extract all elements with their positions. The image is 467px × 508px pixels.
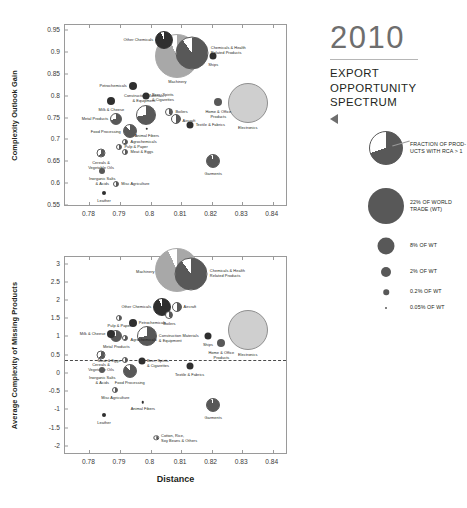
x-tick-mark-top <box>242 25 243 28</box>
y-tick-mark <box>65 117 68 118</box>
bubble-label: Ships <box>208 63 218 68</box>
legend-circle-icon <box>385 307 387 309</box>
x-tick-mark-top <box>273 257 274 260</box>
y-tick-mark <box>65 263 68 264</box>
y-tick-label: 1 <box>32 332 60 339</box>
y-tick-label: -1 <box>32 405 60 412</box>
y-tick-label: 0.85 <box>32 69 60 76</box>
y-tick-mark <box>65 300 68 301</box>
plot-area-bottom: MachineryElectronicsChemicals & HealthRe… <box>64 256 287 454</box>
bubble-label: Textile & Fabrics <box>175 373 204 378</box>
bubble-label: Boilers <box>175 109 187 114</box>
y-tick-mark <box>65 391 68 392</box>
bubble-label: Agrochemicals <box>130 338 156 343</box>
bubble-label: Cotton, Rice,Soy Beans & Others <box>161 434 197 444</box>
x-tick-label: 0.82 <box>204 210 217 217</box>
y-tick-mark <box>65 409 68 410</box>
y-tick-mark <box>65 95 68 96</box>
y-tick-mark <box>65 139 68 140</box>
y-tick-label: 0.65 <box>32 157 60 164</box>
x-tick-label: 0.8 <box>145 210 154 217</box>
bubble-label: Misc Agriculture <box>101 396 129 401</box>
x-tick-mark <box>212 202 213 205</box>
panel-subtitle-line-0: EXPORT <box>330 66 467 81</box>
x-tick-mark <box>151 450 152 453</box>
y-tick-label: 0.6 <box>32 178 60 185</box>
legend-label: 2% OF WT <box>410 268 437 275</box>
bubble-label: Meat & Eggs <box>130 149 153 154</box>
legend-label: 0.05% OF WT <box>410 304 445 311</box>
bubble-label: Inorganic Salts& Acids <box>89 177 116 187</box>
x-tick-mark-top <box>151 257 152 260</box>
x-tick-label: 0.81 <box>174 458 187 465</box>
y-tick-label: 2 <box>32 296 60 303</box>
bubble-label: Meat & Eggs <box>98 359 121 364</box>
bubble-label: Machinery <box>168 80 186 85</box>
legend-label: 22% OF WORLDTRADE (WT) <box>410 199 452 213</box>
x-tick-mark-top <box>89 257 90 260</box>
x-tick-mark-top <box>273 25 274 28</box>
y-tick-label: 0.75 <box>32 113 60 120</box>
legend-circle-icon <box>368 188 404 224</box>
y-tick-label: -0.5 <box>32 387 60 394</box>
y-tick-mark <box>65 354 68 355</box>
x-tick-mark-top <box>89 25 90 28</box>
x-tick-label: 0.81 <box>174 210 187 217</box>
x-tick-mark <box>273 450 274 453</box>
y-tick-label: 0 <box>32 368 60 375</box>
x-tick-mark-top <box>181 25 182 28</box>
bubble-label: Inorganic Salts& Acids <box>89 376 116 386</box>
y-tick-label: 0.55 <box>32 200 60 207</box>
x-tick-label: 0.8 <box>145 458 154 465</box>
bubble-label: Metal Products <box>103 345 130 350</box>
infographic-root: Complexity Outlook Gain MachineryElectro… <box>0 0 467 508</box>
bubble-label: Leather <box>97 421 111 426</box>
panel-divider <box>330 59 418 60</box>
x-tick-mark <box>212 450 213 453</box>
bubble-label: Beer, Spirits& Cigarettes <box>147 359 169 369</box>
x-tick-label: 0.84 <box>265 210 278 217</box>
bubble-label: Food Processing <box>115 381 145 386</box>
y-tick-mark <box>65 281 68 282</box>
legend-label: FRACTION OF PROD-UCTS WITH RCA > 1 <box>410 141 466 155</box>
legend-label: 0.2% OF WT <box>410 288 442 295</box>
x-tick-mark <box>120 450 121 453</box>
x-tick-label: 0.78 <box>82 210 95 217</box>
bubble-label: Machinery <box>136 270 154 275</box>
plot-area-top: MachineryElectronicsChemicals & HealthRe… <box>64 24 287 206</box>
y-tick-label: 0.95 <box>32 26 60 33</box>
y-tick-label: 3 <box>32 259 60 266</box>
y-tick-mark <box>65 52 68 53</box>
y-tick-mark <box>65 73 68 74</box>
x-tick-mark <box>273 202 274 205</box>
panel-subtitle-line-1: OPPORTUNITY <box>330 81 467 96</box>
y-tick-label: -2 <box>32 441 60 448</box>
x-tick-label: 0.84 <box>265 458 278 465</box>
bubble-label: Milk & Cheese <box>99 108 125 113</box>
bubble-label: Other Chemicals <box>121 304 151 309</box>
x-tick-mark <box>181 450 182 453</box>
bubble-label: Home & OfficeProducts <box>208 351 234 361</box>
bubble-label: Electronics <box>238 126 258 131</box>
x-tick-mark <box>181 202 182 205</box>
y-tick-label: 0.7 <box>32 135 60 142</box>
bubble-label: Metal Products <box>82 117 109 122</box>
x-tick-mark-top <box>242 257 243 260</box>
x-tick-mark-top <box>212 25 213 28</box>
panel-subtitle: EXPORTOPPORTUNITYSPECTRUM <box>330 66 467 110</box>
x-tick-label: 0.83 <box>235 210 248 217</box>
y-axis-title-top: Complexity Outlook Gain <box>9 70 18 161</box>
bubble-label: Construction Materials& Equipment <box>159 334 199 344</box>
y-tick-mark <box>65 30 68 31</box>
x-tick-label: 0.82 <box>204 458 217 465</box>
x-tick-label: 0.78 <box>82 458 95 465</box>
legend-circle-icon <box>381 267 391 277</box>
y-tick-label: -1.5 <box>32 423 60 430</box>
bubble-label: Petrochemicals <box>139 320 166 325</box>
legend-circle-icon <box>383 289 389 295</box>
bubble-label: Textile & Fabrics <box>196 122 225 127</box>
bubble-label: Leather <box>97 199 111 204</box>
x-tick-label: 0.79 <box>113 210 126 217</box>
x-tick-label: 0.79 <box>113 458 126 465</box>
legend-pie-icon <box>369 131 403 165</box>
